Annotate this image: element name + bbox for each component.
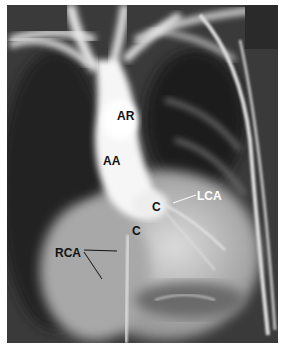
label-c-upper: C <box>152 201 161 213</box>
xray-graphic <box>7 5 278 343</box>
label-c-lower: C <box>132 225 141 237</box>
xray-image <box>7 5 278 343</box>
label-rca: RCA <box>55 247 81 259</box>
label-lca: LCA <box>197 190 222 202</box>
label-ar: AR <box>117 110 134 122</box>
label-aa: AA <box>103 155 120 167</box>
